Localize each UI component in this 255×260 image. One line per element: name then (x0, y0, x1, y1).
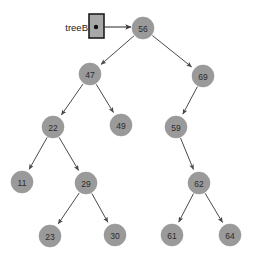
tree-edge-n69-n59 (183, 87, 198, 114)
tree-node-22: 22 (42, 116, 64, 138)
tree-node-49: 49 (110, 114, 132, 136)
pointer-dot-icon (94, 25, 98, 29)
tree-node-56: 56 (132, 17, 154, 39)
tree-node-29: 29 (75, 172, 97, 194)
node-label-69: 69 (198, 72, 208, 82)
tree-edge-n59-n62 (181, 138, 194, 169)
tree-node-30: 30 (104, 224, 126, 246)
node-label-11: 11 (18, 178, 27, 188)
tree-edge-n29-n30 (92, 193, 108, 222)
node-label-29: 29 (81, 179, 91, 189)
node-label-47: 47 (85, 70, 95, 80)
tree-node-11: 11 (11, 171, 33, 193)
node-label-23: 23 (45, 232, 55, 242)
node-label-49: 49 (116, 121, 126, 131)
node-label-61: 61 (167, 231, 177, 241)
tree-edge-n22-n29 (59, 137, 78, 170)
tree-node-64: 64 (219, 224, 241, 246)
tree-pointer: treeB (65, 14, 131, 38)
tree-node-47: 47 (79, 63, 101, 85)
tree-node-23: 23 (39, 225, 61, 247)
node-label-59: 59 (171, 123, 181, 133)
node-label-62: 62 (194, 179, 204, 189)
tree-node-61: 61 (161, 224, 183, 246)
tree-node-69: 69 (192, 65, 214, 87)
tree-edge-n47-n22 (61, 84, 83, 115)
tree-diagram: treeB 56476922495911296223306164 (0, 0, 255, 260)
tree-edge-n22-n11 (29, 137, 47, 169)
tree-node-59: 59 (165, 116, 187, 138)
tree-edge-n47-n49 (96, 84, 113, 112)
pointer-label: treeB (65, 22, 88, 33)
tree-edge-n62-n64 (205, 193, 222, 222)
node-label-64: 64 (225, 231, 235, 241)
node-label-22: 22 (48, 123, 58, 133)
tree-nodes: 56476922495911296223306164 (11, 17, 241, 247)
tree-edge-n56-n69 (152, 36, 191, 67)
tree-edge-n62-n61 (179, 194, 194, 222)
tree-canvas: treeB 56476922495911296223306164 (0, 0, 255, 260)
tree-edge-n56-n47 (101, 36, 134, 65)
node-label-30: 30 (110, 231, 120, 241)
tree-node-62: 62 (188, 172, 210, 194)
node-label-56: 56 (138, 24, 148, 34)
tree-edge-n29-n23 (58, 193, 79, 224)
